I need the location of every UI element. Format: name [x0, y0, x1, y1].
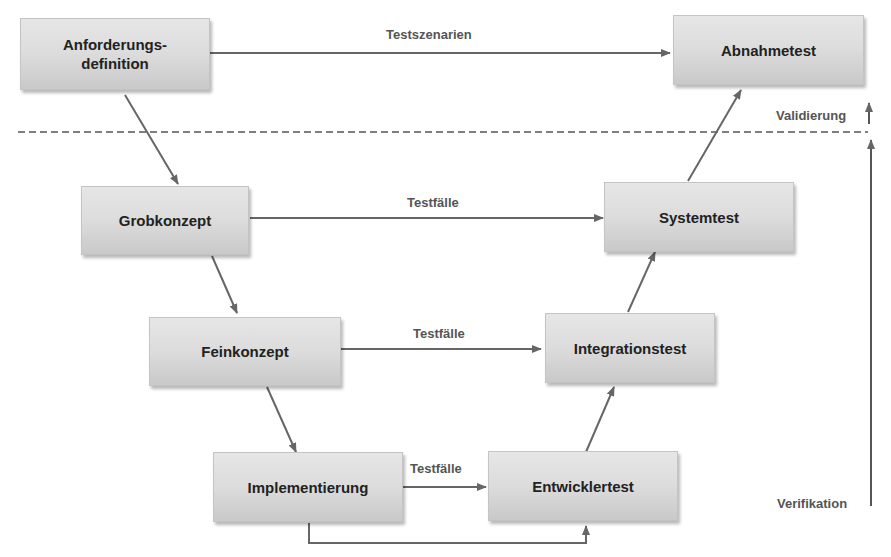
phase-systemtest: Systemtest — [604, 182, 794, 252]
edge-label-testfaelle-fein: Testfälle — [413, 326, 465, 341]
phase-feinkonzept: Feinkonzept — [149, 317, 341, 386]
arrow-fein-to-impl — [267, 387, 296, 452]
phase-label: Entwicklertest — [532, 477, 634, 496]
phase-anforderungsdefinition: Anforderungs- definition — [20, 18, 210, 90]
edge-label-testfaelle-grob: Testfälle — [407, 195, 459, 210]
arrow-anforderung-to-grob — [125, 95, 178, 184]
phase-label-line2: definition — [81, 54, 149, 73]
arrow-grob-to-fein — [212, 256, 237, 313]
edge-label-testfaelle-impl: Testfälle — [410, 461, 462, 476]
phase-label: Implementierung — [248, 478, 369, 497]
phase-grobkonzept: Grobkonzept — [81, 186, 249, 255]
phase-label-line1: Anforderungs- — [63, 35, 167, 54]
arrow-integration-to-system — [628, 252, 655, 312]
phase-integrationstest: Integrationstest — [545, 313, 715, 383]
phase-label: Integrationstest — [574, 339, 687, 358]
arrow-system-to-abnahme — [688, 90, 741, 181]
arrow-entwickler-to-integration — [586, 387, 614, 452]
phase-implementierung: Implementierung — [213, 452, 403, 522]
axis-label-validierung: Validierung — [776, 108, 846, 123]
phase-entwicklertest: Entwicklertest — [488, 451, 678, 521]
edge-label-testszenarien: Testszenarien — [386, 27, 472, 42]
phase-label: Feinkonzept — [201, 342, 289, 361]
axis-label-verifikation: Verifikation — [777, 496, 847, 511]
phase-label: Grobkonzept — [119, 211, 212, 230]
arrow-impl-to-entwickler-loop — [309, 523, 586, 543]
phase-label: Systemtest — [659, 208, 739, 227]
phase-abnahmetest: Abnahmetest — [673, 15, 864, 85]
phase-label: Abnahmetest — [721, 41, 816, 60]
